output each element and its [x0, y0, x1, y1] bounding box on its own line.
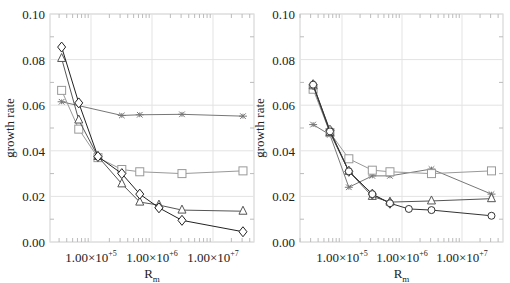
data-point-square [136, 168, 144, 176]
data-point-square [345, 155, 353, 163]
y-tick-label: 0.08 [272, 53, 295, 68]
data-point-square [427, 170, 435, 178]
data-point-circle [405, 205, 412, 212]
data-point-square [386, 168, 394, 176]
x-tick-label: 1.00×10+6 [126, 249, 178, 265]
data-point-circle [345, 168, 352, 175]
y-tick-label: 0.02 [22, 189, 45, 204]
x-axis-title: Rm [394, 266, 410, 283]
data-point-square [239, 167, 247, 175]
data-point-circle [488, 212, 495, 219]
x-tick-label: 1.00×10+7 [187, 249, 239, 265]
data-point-circle [428, 207, 435, 214]
right-chart-panel: 0.000.020.040.060.080.101.00×10+51.00×10… [252, 7, 503, 283]
y-tick-label: 0.10 [22, 7, 45, 22]
y-tick-label: 0.04 [22, 144, 45, 159]
data-point-circle [386, 200, 393, 207]
y-tick-label: 0.06 [272, 98, 295, 113]
data-point-circle [310, 81, 317, 88]
y-axis-title: growth rate [252, 98, 267, 158]
y-tick-label: 0.10 [272, 7, 295, 22]
data-point-square [178, 170, 186, 178]
y-axis-title: growth rate [2, 98, 17, 158]
y-tick-label: 0.04 [272, 144, 295, 159]
data-point-square [487, 167, 495, 175]
figure: 0.000.020.040.060.080.101.00×10+51.00×10… [0, 0, 510, 283]
data-point-square [58, 86, 66, 94]
x-tick-label: 1.00×10+7 [436, 249, 488, 265]
y-tick-label: 0.02 [272, 189, 295, 204]
y-tick-label: 0.00 [22, 235, 45, 250]
x-tick-label: 1.00×10+6 [376, 249, 428, 265]
x-tick-label: 1.00×10+5 [65, 249, 117, 265]
data-point-circle [326, 128, 333, 135]
data-point-circle [369, 191, 376, 198]
x-axis-title: Rm [144, 266, 160, 283]
y-tick-label: 0.00 [272, 235, 295, 250]
left-chart-panel: 0.000.020.040.060.080.101.00×10+51.00×10… [2, 7, 254, 283]
y-tick-label: 0.06 [22, 98, 45, 113]
data-point-square [368, 166, 376, 174]
y-tick-label: 0.08 [22, 53, 45, 68]
x-tick-label: 1.00×10+5 [316, 249, 368, 265]
